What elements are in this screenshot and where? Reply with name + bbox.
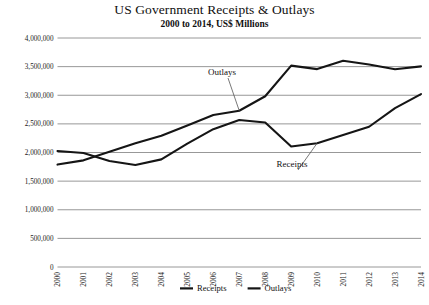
x-axis-tick-label: 2005 bbox=[183, 272, 192, 287]
x-axis-tick-label: 2013 bbox=[391, 272, 400, 287]
data-series-group bbox=[58, 61, 422, 165]
series-annotations: OutlaysReceipts bbox=[208, 67, 317, 170]
annotation-label-outlays: Outlays bbox=[208, 67, 236, 77]
y-axis-tick-label: 1,000,000 bbox=[25, 206, 54, 214]
x-axis-tick-label: 2014 bbox=[417, 272, 426, 287]
x-axis-tick-label: 2007 bbox=[235, 272, 244, 287]
y-axis-tick-label: 1,500,000 bbox=[25, 178, 54, 186]
x-axis-tick-label: 2003 bbox=[131, 272, 140, 287]
series-line-outlays bbox=[58, 61, 422, 165]
y-axis-tick-labels: 0500,0001,000,0001,500,0002,000,0002,500… bbox=[25, 35, 54, 272]
x-axis-tick-label: 2002 bbox=[105, 272, 114, 287]
legend-label-receipts: Receipts bbox=[197, 283, 227, 293]
x-axis-tick-label: 2011 bbox=[339, 272, 348, 287]
x-axis-tick-label: 2010 bbox=[313, 272, 322, 287]
y-axis-tick-label: 2,000,000 bbox=[25, 149, 54, 157]
y-axis-tick-label: 2,500,000 bbox=[25, 120, 54, 128]
x-axis-tick-label: 2004 bbox=[157, 272, 166, 287]
y-axis-tick-label: 0 bbox=[50, 264, 54, 272]
legend-label-outlays: Outlays bbox=[265, 283, 292, 293]
y-axis-tick-label: 500,000 bbox=[30, 235, 54, 243]
series-line-receipts bbox=[58, 94, 422, 165]
x-axis-tick-label: 2012 bbox=[365, 272, 374, 287]
y-axis-tick-label: 4,000,000 bbox=[25, 35, 54, 43]
chart-figure: US Government Receipts & Outlays 2000 to… bbox=[0, 0, 429, 305]
x-axis-tick-label: 2000 bbox=[53, 272, 62, 287]
annotation-leader-line bbox=[228, 78, 239, 111]
y-axis-tick-label: 3,500,000 bbox=[25, 63, 54, 71]
y-axis-tick-label: 3,000,000 bbox=[25, 92, 54, 100]
x-axis-tick-labels: 2000200120022003200420052006200720082009… bbox=[53, 272, 426, 287]
line-chart-plot: 0500,0001,000,0001,500,0002,000,0002,500… bbox=[0, 0, 429, 305]
x-axis-tick-label: 2001 bbox=[79, 272, 88, 287]
gridlines-group bbox=[58, 38, 422, 267]
annotation-label-receipts: Receipts bbox=[277, 159, 308, 169]
